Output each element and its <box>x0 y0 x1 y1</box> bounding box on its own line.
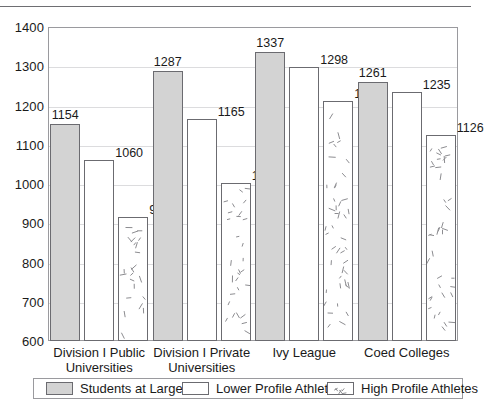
bar-high-profile-athletes <box>118 217 148 341</box>
legend-item: Lower Profile Athletes <box>182 379 342 398</box>
x-axis-label-line: Division I Private <box>151 345 254 360</box>
legend-item: Students at Large <box>46 379 183 398</box>
speckle-pattern-icon <box>328 386 353 395</box>
chart-legend: Students at LargeLower Profile AthletesH… <box>33 378 463 399</box>
bar-students-at-large <box>255 52 285 341</box>
bar-lower-profile-athletes <box>84 160 114 341</box>
y-axis-tick-label: 600 <box>0 335 44 348</box>
y-axis-tick-label: 800 <box>0 257 44 270</box>
bar-value-label: 1298 <box>320 54 348 67</box>
x-axis-label-line: Universities <box>151 360 254 375</box>
speckle-pattern-icon <box>119 218 147 340</box>
x-axis-label-line: Division I Public <box>48 345 151 360</box>
bar-high-profile-athletes <box>323 101 353 341</box>
bars-layer: 1154106091712871165100313371298121212611… <box>48 27 458 341</box>
legend-label: Lower Profile Athletes <box>216 382 342 395</box>
bar-value-label: 1165 <box>218 106 245 119</box>
speckle-fill <box>324 102 352 340</box>
y-axis-tick-label: 700 <box>0 296 44 309</box>
bar-high-profile-athletes <box>221 183 251 341</box>
speckle-pattern-icon <box>427 136 455 340</box>
speckle-pattern-icon <box>222 184 250 340</box>
x-axis-label-line: Ivy League <box>253 345 356 360</box>
speckle-pattern-icon <box>324 102 352 340</box>
bar-lower-profile-athletes <box>392 92 422 341</box>
x-axis-label-group-3: Ivy League <box>253 345 356 360</box>
bar-value-label: 1060 <box>115 147 143 160</box>
y-axis-tick-label: 1400 <box>0 21 44 34</box>
x-axis-label-group-4: Coed Colleges <box>356 345 459 360</box>
legend-label: Students at Large <box>80 382 183 395</box>
caption-divider <box>0 6 471 7</box>
bar-value-label: 1126 <box>457 122 484 135</box>
bar-value-label: 1287 <box>153 56 183 69</box>
x-axis-label-group-1: Division I PublicUniversities <box>48 345 151 375</box>
x-axis-label-line: Coed Colleges <box>356 345 459 360</box>
white-swatch <box>182 382 209 395</box>
legend-item: High Profile Athletes <box>327 379 478 398</box>
bar-value-label: 1337 <box>255 37 285 50</box>
speckle-fill <box>427 136 455 340</box>
speckle-fill <box>222 184 250 340</box>
solid-gray-swatch <box>46 382 73 395</box>
x-axis-label-group-2: Division I PrivateUniversities <box>151 345 254 375</box>
bar-high-profile-athletes <box>426 135 456 341</box>
bar-value-label: 1261 <box>358 67 388 80</box>
bar-students-at-large <box>358 82 388 341</box>
speckle-fill <box>119 218 147 340</box>
y-axis-tick-label: 1200 <box>0 100 44 113</box>
bar-value-label: 1235 <box>423 79 451 92</box>
y-axis-tick-label: 1100 <box>0 139 44 152</box>
y-axis-tick-label: 1000 <box>0 178 44 191</box>
speckled-swatch <box>327 382 354 395</box>
bar-lower-profile-athletes <box>289 67 319 341</box>
bar-students-at-large <box>50 124 80 341</box>
bar-value-label: 1154 <box>50 109 80 122</box>
y-axis-tick-label: 900 <box>0 217 44 230</box>
legend-label: High Profile Athletes <box>361 382 478 395</box>
y-axis-tick-label: 1300 <box>0 60 44 73</box>
legend-item-list: Students at LargeLower Profile AthletesH… <box>34 379 462 398</box>
bar-students-at-large <box>153 71 183 341</box>
bar-lower-profile-athletes <box>187 119 217 341</box>
x-axis-label-line: Universities <box>48 360 151 375</box>
